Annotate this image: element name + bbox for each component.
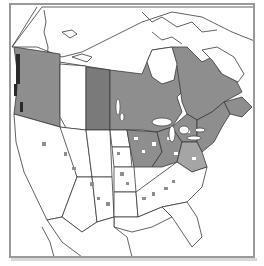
us-west bbox=[14, 114, 114, 232]
region-alberta bbox=[60, 64, 86, 130]
frame-shadow bbox=[11, 258, 257, 261]
north-america-map bbox=[9, 3, 255, 258]
map-frame bbox=[9, 3, 255, 258]
region-saskatchewan bbox=[86, 67, 110, 130]
region-british-columbia bbox=[14, 47, 60, 127]
